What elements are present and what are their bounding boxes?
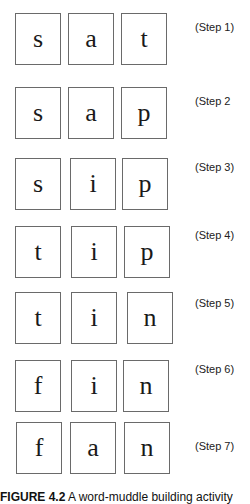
letter-card: s	[15, 87, 61, 139]
figure-label: FIGURE 4.2	[0, 490, 65, 504]
letter-card: i	[70, 158, 116, 210]
letter-card: t	[121, 13, 167, 65]
step-row-1: s a t (Step 1)	[15, 13, 245, 65]
letter-card: p	[121, 87, 167, 139]
letter-card: a	[68, 87, 114, 139]
letter-card: s	[15, 158, 61, 210]
step-row-3: s i p (Step 3)	[15, 158, 245, 210]
figure-caption: FIGURE 4.2 A word-muddle building activi…	[0, 490, 233, 504]
step-row-6: f i n (Step 6)	[15, 360, 245, 412]
step-row-5: t i n (Step 5)	[15, 292, 245, 344]
step-label: (Step 1)	[195, 21, 234, 33]
step-row-2: s a p (Step 2	[15, 87, 245, 139]
step-label: (Step 6)	[195, 363, 234, 375]
letter-card: f	[15, 360, 61, 412]
step-label: (Step 2	[195, 95, 230, 107]
letter-card: t	[15, 226, 61, 278]
step-row-7: f a n (Step 7)	[15, 422, 245, 474]
letter-card: f	[16, 422, 62, 474]
letter-card: n	[123, 360, 169, 412]
step-row-4: t i p (Step 4)	[15, 226, 245, 278]
letter-card: t	[15, 292, 61, 344]
letter-card: s	[15, 13, 61, 65]
letter-card: n	[127, 292, 173, 344]
letter-card: p	[124, 226, 170, 278]
step-label: (Step 3)	[195, 161, 234, 173]
letter-card: i	[71, 292, 117, 344]
letter-card: p	[122, 158, 168, 210]
step-label: (Step 4)	[195, 229, 234, 241]
letter-card: n	[124, 422, 170, 474]
caption-text: A word-muddle building activity	[65, 490, 232, 504]
letter-card: a	[70, 422, 116, 474]
letter-card: a	[68, 13, 114, 65]
letter-card: i	[71, 226, 117, 278]
step-label: (Step 7)	[195, 440, 234, 452]
step-label: (Step 5)	[195, 297, 234, 309]
letter-card: i	[71, 360, 117, 412]
